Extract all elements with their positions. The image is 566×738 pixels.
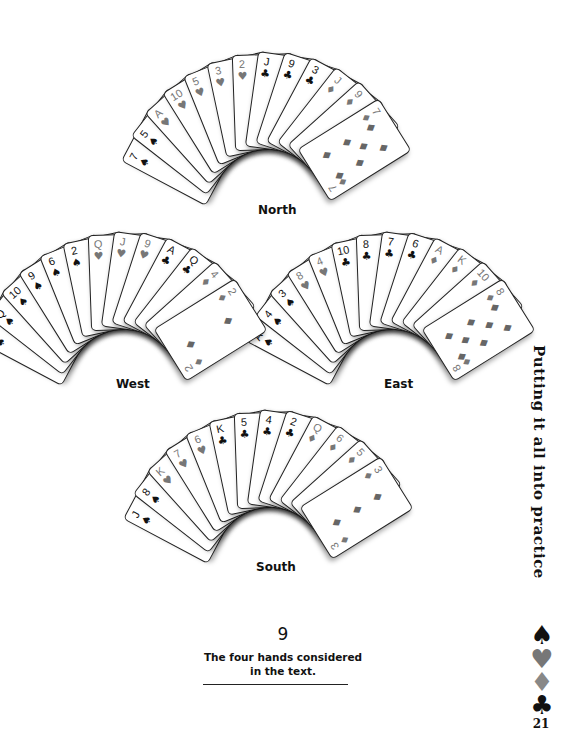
diamond-icon: ♦ — [361, 469, 376, 483]
card-index: 2♠ — [68, 245, 82, 270]
club-icon: ♣ — [179, 262, 194, 277]
club-icon: ♣ — [340, 256, 352, 269]
card-index: 3♥ — [212, 65, 226, 90]
card-rank: J — [263, 56, 270, 68]
club-icon: ♣ — [303, 73, 317, 87]
card-index-bottom: 7♦ — [326, 175, 351, 196]
spade-icon: ♠ — [139, 513, 153, 527]
club-icon: ♣ — [383, 248, 394, 260]
card-rank: J — [119, 236, 126, 248]
club-icon: ♣ — [261, 426, 272, 438]
card-index: 4♣ — [261, 414, 274, 438]
heart-icon: ♥ — [161, 473, 176, 488]
heart-icon: ♥ — [176, 98, 190, 113]
card-index: 7♥ — [171, 447, 192, 472]
diamond-icon: ♦ — [474, 334, 493, 352]
figure-caption-block: The four hands considered in the text. — [200, 650, 366, 678]
card-index: 5♥ — [189, 75, 207, 100]
card-index: Q♠ — [0, 307, 17, 329]
card-index: Q♦ — [305, 421, 325, 446]
club-icon: ♣ — [527, 692, 557, 718]
heart-icon: ♥ — [196, 444, 209, 458]
north-label: North — [258, 203, 296, 217]
diamond-icon: ♦ — [215, 291, 230, 305]
spade-icon: ♠ — [50, 266, 63, 280]
south-label: South — [256, 560, 296, 574]
club-icon: ♣ — [259, 68, 270, 80]
club-icon: ♣ — [405, 249, 418, 263]
heart-icon: ♥ — [177, 457, 191, 472]
diamond-icon: ♦ — [354, 138, 373, 156]
diamond-icon: ♦ — [219, 312, 238, 330]
diamond-icon: ♦ — [480, 316, 499, 334]
card-rank: 4 — [265, 414, 273, 426]
card-index: 3♣ — [303, 63, 323, 88]
club-icon: ♣ — [239, 429, 249, 440]
card-rank: 2 — [239, 59, 246, 70]
card-index: 2♦ — [215, 285, 240, 306]
heart-icon: ♥ — [318, 266, 331, 280]
diamond-icon: ♦ — [498, 319, 517, 337]
diamond-icon: ♦ — [338, 533, 353, 547]
club-icon: ♣ — [159, 253, 173, 267]
diamond-icon: ♦ — [338, 134, 357, 152]
card-index: J♦ — [323, 73, 345, 97]
card-rank: 8 — [363, 239, 370, 250]
diamond-icon: ♦ — [325, 440, 340, 455]
card-index: J♣ — [259, 56, 272, 80]
card-index: 2♣ — [283, 415, 299, 440]
card-index: A♣ — [159, 243, 179, 268]
diamond-icon: ♦ — [317, 146, 336, 164]
diamond-icon: ♦ — [374, 139, 393, 157]
card-index: 6♥ — [191, 433, 209, 458]
card-index: 7♠ — [127, 150, 152, 170]
card-index: 7♣ — [383, 236, 396, 260]
diamond-icon: ♦ — [439, 328, 458, 346]
diamond-icon: ♦ — [462, 314, 481, 332]
spade-icon: ♠ — [137, 155, 151, 169]
spade-icon: ♠ — [16, 294, 31, 309]
diamond-icon: ♦ — [447, 262, 462, 277]
card-rank: 7 — [387, 236, 395, 248]
club-icon: ♣ — [361, 251, 371, 262]
card-index: 6♣ — [405, 237, 421, 262]
club-icon: ♣ — [283, 427, 296, 441]
card-index: K♣ — [214, 423, 228, 448]
card-index: 6♠ — [45, 255, 63, 280]
card-index: 8♥ — [293, 269, 314, 294]
diamond-icon: ♦ — [181, 336, 200, 354]
club-icon: ♣ — [281, 69, 294, 83]
card-rank: Q — [94, 239, 103, 250]
east-label: East — [384, 377, 413, 391]
card-index-bottom: 3♦ — [328, 533, 353, 554]
card-index: Q♣ — [179, 253, 201, 277]
card-index: 2♥ — [237, 59, 248, 82]
spade-icon: ♠ — [283, 295, 298, 310]
spade-icon: ♠ — [261, 335, 275, 349]
diamond-icon: ♦ — [427, 253, 441, 267]
spade-icon: ♠ — [270, 314, 285, 329]
card-index: K♦ — [447, 253, 469, 277]
heart-icon: ♥ — [215, 76, 227, 89]
card-index: K♠ — [0, 330, 8, 350]
card-index-bottom: 2♦ — [182, 355, 207, 376]
diamond-icon: ♦ — [305, 431, 319, 445]
figure-caption: The four hands considered in the text. — [200, 650, 366, 678]
card-index: 9♥ — [137, 237, 153, 262]
card-index: Q♥ — [93, 239, 104, 262]
diamond-icon: ♦ — [323, 82, 338, 97]
diamond-icon: ♦ — [350, 154, 369, 172]
heart-icon: ♥ — [137, 249, 150, 263]
heart-icon: ♥ — [299, 279, 313, 294]
card-index: 10♥ — [169, 87, 192, 113]
figure-number: 9 — [0, 624, 566, 644]
card-index: 9♣ — [281, 57, 297, 82]
heart-icon: ♥ — [194, 86, 207, 100]
card-index: J♥ — [115, 236, 128, 260]
spade-icon: ♠ — [2, 314, 17, 329]
card-index: 6♦ — [325, 431, 347, 455]
diamond-icon: ♦ — [327, 514, 346, 532]
card-index: 3♦ — [361, 463, 386, 484]
diamond-icon: ♦ — [368, 488, 387, 506]
diamond-icon: ♦ — [456, 331, 475, 349]
